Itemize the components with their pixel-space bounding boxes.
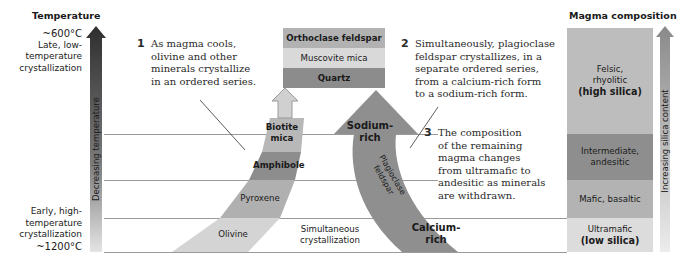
magma-felsic: Felsic, rhyolitic (high silica) bbox=[567, 28, 653, 134]
simultaneous-crystallization-label: Simultaneous crystallization bbox=[290, 224, 370, 246]
magma-ultramafic: Ultramafic (low silica) bbox=[567, 218, 653, 252]
mineral-quartz: Quartz bbox=[283, 68, 385, 88]
mineral-orthoclase-feldspar: Orthoclase feldspar bbox=[283, 28, 385, 48]
note-1-number: 1 bbox=[137, 38, 145, 51]
sodium-rich-label: Sodium- rich bbox=[340, 120, 400, 144]
note-2: 2 Simultaneously, plagioclase feldspar c… bbox=[415, 38, 575, 101]
mineral-pyroxene: Pyroxene bbox=[232, 193, 288, 204]
increasing-silica-label: Increasing silica content bbox=[660, 81, 670, 201]
magma-composition-title: Magma composition bbox=[569, 10, 677, 21]
calcium-rich-label: Calcium- rich bbox=[406, 222, 466, 246]
magma-intermediate: Intermediate, andesitic bbox=[567, 134, 653, 180]
note-1: 1 As magma cools, olivine and other mine… bbox=[151, 38, 281, 88]
magma-mafic: Mafic, basaltic bbox=[567, 180, 653, 218]
mineral-olivine: Olivine bbox=[208, 229, 258, 240]
note-3: 3 The composition of the remaining magma… bbox=[438, 127, 568, 202]
mineral-muscovite-mica: Muscovite mica bbox=[283, 48, 385, 68]
note-2-number: 2 bbox=[401, 38, 409, 51]
mineral-amphibole: Amphibole bbox=[253, 160, 301, 171]
mineral-biotite-mica: Biotite mica bbox=[262, 122, 302, 144]
note-3-number: 3 bbox=[424, 127, 432, 140]
